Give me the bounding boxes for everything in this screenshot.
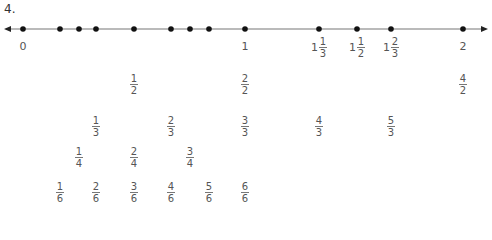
tick-label: 1 (242, 40, 249, 53)
numerator: 1 (76, 146, 82, 157)
fraction: 16 (56, 181, 64, 204)
right-arrow-icon (481, 26, 488, 32)
number-line-point (460, 26, 466, 32)
number-line-point (316, 26, 322, 32)
fraction: 46 (167, 181, 175, 204)
fraction: 56 (205, 181, 213, 204)
denominator: 6 (206, 193, 212, 204)
denominator: 2 (460, 85, 466, 96)
fraction: 13 (92, 115, 100, 138)
fraction: 43 (315, 115, 323, 138)
fraction: 12 (357, 36, 365, 59)
number-line-point (93, 26, 99, 32)
number-line-point (206, 26, 212, 32)
numerator: 1 (320, 36, 326, 47)
numerator: 2 (392, 36, 398, 47)
numerator: 5 (206, 181, 212, 192)
numerator: 3 (242, 115, 248, 126)
denominator: 6 (242, 193, 248, 204)
fraction: 22 (241, 73, 249, 96)
denominator: 6 (168, 193, 174, 204)
mixed-number-label: 123 (383, 36, 399, 59)
fraction: 53 (387, 115, 395, 138)
numerator: 4 (316, 115, 322, 126)
numerator: 4 (168, 181, 174, 192)
fraction: 42 (459, 73, 467, 96)
numerator: 5 (388, 115, 394, 126)
number-line-point (187, 26, 193, 32)
denominator: 2 (242, 85, 248, 96)
fraction: 14 (75, 146, 83, 169)
denominator: 3 (93, 127, 99, 138)
denominator: 2 (131, 85, 137, 96)
denominator: 4 (76, 158, 82, 169)
fraction: 34 (186, 146, 194, 169)
numerator: 3 (187, 146, 193, 157)
fraction: 66 (241, 181, 249, 204)
denominator: 3 (392, 48, 398, 59)
numerator: 2 (242, 73, 248, 84)
denominator: 6 (131, 193, 137, 204)
numerator: 1 (358, 36, 364, 47)
number-line-point (57, 26, 63, 32)
tick-label: 2 (460, 40, 467, 53)
denominator: 3 (320, 48, 326, 59)
fraction: 13 (319, 36, 327, 59)
number-line-point (168, 26, 174, 32)
denominator: 2 (358, 48, 364, 59)
tick-label: 0 (20, 40, 27, 53)
denominator: 4 (131, 158, 137, 169)
number-line-point (131, 26, 137, 32)
numerator: 1 (131, 73, 137, 84)
numerator: 2 (93, 181, 99, 192)
number-line-point (242, 26, 248, 32)
denominator: 6 (57, 193, 63, 204)
numerator: 1 (93, 115, 99, 126)
number-line-point (20, 26, 26, 32)
fraction: 26 (92, 181, 100, 204)
whole-part: 1 (383, 41, 390, 54)
numerator: 6 (242, 181, 248, 192)
number-line-point (354, 26, 360, 32)
mixed-number-label: 112 (349, 36, 365, 59)
fraction: 23 (167, 115, 175, 138)
fraction: 23 (391, 36, 399, 59)
numerator: 4 (460, 73, 466, 84)
whole-part: 1 (349, 41, 356, 54)
numerator: 2 (131, 146, 137, 157)
denominator: 4 (187, 158, 193, 169)
denominator: 3 (388, 127, 394, 138)
mixed-number-label: 113 (311, 36, 327, 59)
denominator: 3 (168, 127, 174, 138)
number-line-point (388, 26, 394, 32)
left-arrow-icon (4, 26, 11, 32)
numerator: 1 (57, 181, 63, 192)
numerator: 3 (131, 181, 137, 192)
denominator: 3 (242, 127, 248, 138)
numerator: 2 (168, 115, 174, 126)
denominator: 3 (316, 127, 322, 138)
whole-part: 1 (311, 41, 318, 54)
fraction: 12 (130, 73, 138, 96)
fraction: 24 (130, 146, 138, 169)
denominator: 6 (93, 193, 99, 204)
fraction: 33 (241, 115, 249, 138)
fraction: 36 (130, 181, 138, 204)
number-line-point (76, 26, 82, 32)
